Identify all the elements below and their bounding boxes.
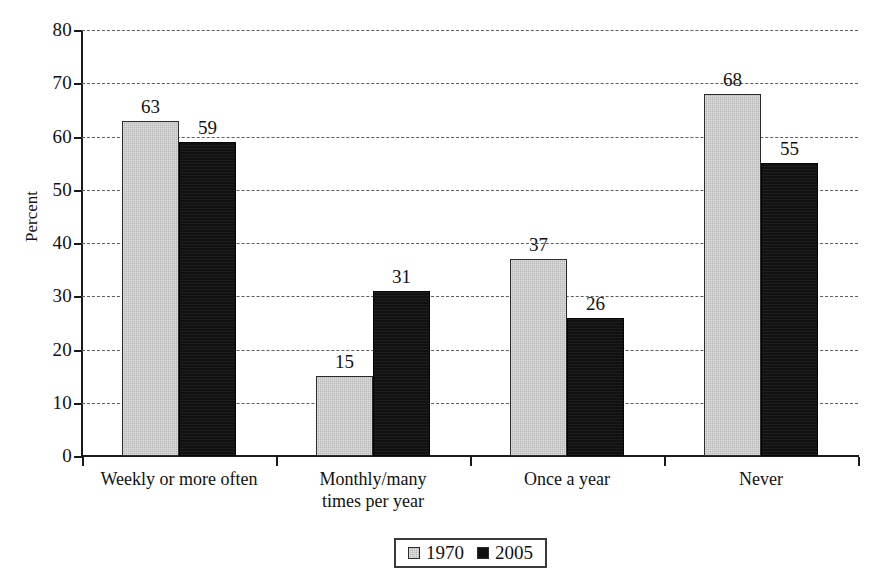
bar-2005-1 bbox=[179, 142, 236, 456]
x-tick-mark bbox=[664, 457, 666, 466]
category-label-line: Once a year bbox=[470, 468, 664, 490]
y-tick-label: 80 bbox=[12, 20, 72, 39]
bar-1970-3 bbox=[510, 259, 567, 456]
x-tick-mark bbox=[276, 457, 278, 466]
legend-label: 2005 bbox=[495, 543, 533, 562]
bars-layer bbox=[82, 30, 858, 456]
y-tick-label: 70 bbox=[12, 73, 72, 92]
bar-value-label: 63 bbox=[112, 97, 189, 116]
y-tick-label: 20 bbox=[12, 340, 72, 359]
bar-value-label: 15 bbox=[306, 352, 383, 371]
y-tick-label: 60 bbox=[12, 127, 72, 146]
legend-label: 1970 bbox=[426, 543, 464, 562]
x-tick-mark bbox=[858, 457, 860, 466]
gray-square-swatch bbox=[408, 547, 420, 559]
bar-value-label: 68 bbox=[694, 70, 771, 89]
bar-value-label: 55 bbox=[751, 139, 828, 158]
category-label-line: Monthly/many bbox=[276, 468, 470, 490]
bar-2005-4 bbox=[761, 163, 818, 456]
category-label-3: Once a year bbox=[470, 468, 664, 490]
category-label-line: Never bbox=[664, 468, 858, 490]
x-tick-mark bbox=[82, 457, 84, 466]
x-tick-mark bbox=[470, 457, 472, 466]
category-label-line: times per year bbox=[276, 490, 470, 512]
bar-value-label: 31 bbox=[363, 267, 440, 286]
y-tick-label: 30 bbox=[12, 286, 72, 305]
bar-2005-3 bbox=[567, 318, 624, 456]
y-tick-label: 10 bbox=[12, 393, 72, 412]
legend-item-2005: 2005 bbox=[477, 543, 533, 562]
bar-value-label: 37 bbox=[500, 235, 577, 254]
category-label-2: Monthly/manytimes per year bbox=[276, 468, 470, 512]
legend-item-1970: 1970 bbox=[408, 543, 464, 562]
category-label-4: Never bbox=[664, 468, 858, 490]
chart-legend: 19702005 bbox=[394, 538, 547, 568]
y-tick-label: 0 bbox=[12, 446, 72, 465]
category-label-line: Weekly or more often bbox=[82, 468, 276, 490]
category-label-1: Weekly or more often bbox=[82, 468, 276, 490]
bar-value-label: 59 bbox=[169, 118, 246, 137]
bar-2005-2 bbox=[373, 291, 430, 456]
bar-1970-1 bbox=[122, 121, 179, 456]
grouped-bar-chart: Percent 80706050403020100 63591531372668… bbox=[0, 0, 873, 583]
black-square-swatch bbox=[477, 547, 489, 559]
y-tick-label: 40 bbox=[12, 233, 72, 252]
y-tick-label: 50 bbox=[12, 180, 72, 199]
bar-value-label: 26 bbox=[557, 294, 634, 313]
bar-1970-2 bbox=[316, 376, 373, 456]
